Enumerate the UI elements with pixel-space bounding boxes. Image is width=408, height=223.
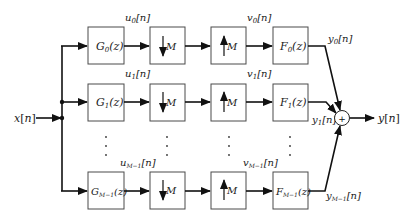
decimator-0-label: M [165, 41, 177, 52]
junction-dot [60, 116, 64, 120]
decimator-1-label: M [165, 97, 177, 108]
ym1-label: yM−1[n] [325, 190, 361, 202]
y0-label: y0[n] [327, 33, 352, 46]
u1-label: u1[n] [125, 68, 150, 81]
um1-label: uM−1[n] [120, 157, 156, 169]
f0-label: F0(z) [279, 40, 307, 54]
ellipsis-dots [105, 136, 291, 156]
channel-1: G1(z) u1[n] M M v1[n] F1(z) y1[n] [61, 68, 336, 127]
expander-1-label: M [226, 97, 238, 108]
plus-symbol: + [338, 114, 346, 124]
expander-0-label: M [226, 41, 238, 52]
u0-label: u0[n] [125, 12, 150, 25]
v1-label: v1[n] [247, 68, 271, 81]
g1-label: G1(z) [96, 96, 124, 110]
expander-m1-label: M [226, 185, 238, 196]
f1-label: F1(z) [279, 96, 307, 110]
vm1-label: vM−1[n] [243, 157, 278, 169]
channel-m-1: GM−1(z) uM−1[n] M M vM−1[n] FM−1(z) yM−1… [61, 126, 361, 209]
input-label: x[n] [14, 112, 36, 125]
v0-label: v0[n] [247, 12, 271, 25]
g0-label: G0(z) [96, 40, 124, 54]
output-label: y[n] [377, 112, 400, 125]
filter-bank-diagram: x[n] G0(z) u0[n] M M v0[n] F0(z) y0[n] G… [0, 0, 408, 223]
y1-label: y1[n] [311, 114, 336, 127]
decimator-m1-label: M [165, 185, 177, 196]
